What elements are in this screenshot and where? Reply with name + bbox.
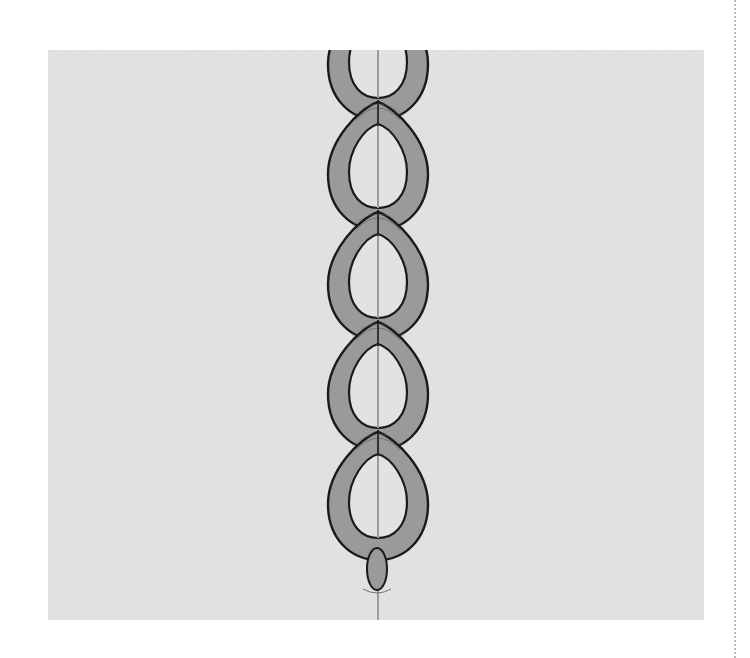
chain-stitch-figure: Chain stitch diagram — [0, 0, 750, 658]
stitch-crossing — [352, 0, 404, 16]
page-margin-rule — [734, 0, 736, 658]
chain-stitch-illustration — [0, 0, 750, 658]
chain-links — [328, 0, 428, 620]
